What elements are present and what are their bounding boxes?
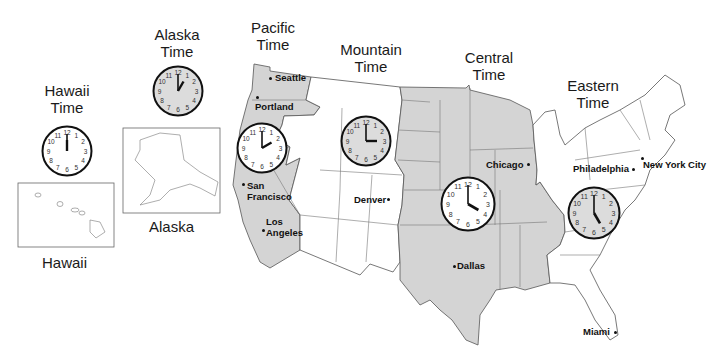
svg-text:9: 9: [346, 138, 350, 145]
svg-text:9: 9: [446, 201, 450, 208]
zone-title-central: Central Time: [454, 49, 524, 83]
svg-text:11: 11: [54, 132, 61, 139]
svg-text:3: 3: [279, 145, 283, 152]
city-dot-chicago: [527, 163, 530, 166]
zone-title-pacific: Pacific Time: [244, 19, 302, 53]
hawaii-inset-box: [18, 183, 114, 247]
city-dot-portland: [256, 96, 259, 99]
svg-text:4: 4: [276, 154, 280, 161]
city-dot-seattle: [269, 77, 272, 80]
city-dot-philadelphia: [632, 168, 635, 171]
zone-title-line1: Mountain: [331, 41, 411, 58]
city-philadelphia: Philadelphia: [573, 163, 629, 174]
zone-title-mountain: Mountain Time: [331, 41, 411, 75]
svg-text:8: 8: [160, 97, 164, 104]
alaska-label: Alaska: [149, 218, 194, 235]
svg-text:9: 9: [242, 145, 246, 152]
svg-text:11: 11: [249, 129, 256, 136]
svg-text:4: 4: [192, 97, 196, 104]
city-dallas: Dallas: [457, 260, 485, 271]
svg-text:1: 1: [476, 183, 480, 190]
zone-title-line2: Time: [38, 99, 96, 116]
svg-text:1: 1: [373, 122, 377, 129]
zone-title-line1: Pacific: [244, 19, 302, 36]
svg-text:11: 11: [353, 122, 360, 129]
svg-text:6: 6: [364, 156, 368, 163]
svg-text:7: 7: [167, 104, 171, 111]
zone-title-line1: Alaska: [148, 26, 206, 43]
svg-text:5: 5: [476, 218, 480, 225]
svg-text:8: 8: [348, 147, 352, 154]
zone-title-line2: Time: [331, 58, 411, 75]
clock-pacific: 121234567891011: [236, 122, 288, 174]
city-name-line1: Los: [266, 216, 303, 227]
svg-text:7: 7: [582, 226, 586, 233]
svg-text:9: 9: [573, 210, 577, 217]
svg-text:3: 3: [84, 148, 88, 155]
city-name-line2: Francisco: [247, 191, 292, 202]
svg-text:8: 8: [575, 219, 579, 226]
svg-text:11: 11: [581, 193, 588, 200]
svg-text:3: 3: [195, 88, 199, 95]
clock-hawaii: 121234567891011: [41, 125, 93, 177]
zone-title-line2: Time: [244, 36, 302, 53]
svg-text:4: 4: [483, 211, 487, 218]
svg-text:5: 5: [269, 161, 273, 168]
city-miami: Miami: [583, 326, 610, 337]
svg-text:2: 2: [81, 138, 85, 145]
zone-title-alaska: Alaska Time: [148, 26, 206, 60]
svg-text:8: 8: [449, 211, 453, 218]
svg-text:7: 7: [56, 164, 60, 171]
svg-text:5: 5: [602, 226, 606, 233]
svg-text:2: 2: [483, 191, 487, 198]
zone-title-line2: Time: [558, 94, 628, 111]
svg-text:2: 2: [192, 78, 196, 85]
svg-text:7: 7: [456, 218, 460, 225]
zone-title-eastern: Eastern Time: [558, 77, 628, 111]
city-new-york-city: New York City: [643, 159, 706, 170]
svg-text:7: 7: [355, 154, 359, 161]
city-dot-denver: [387, 198, 390, 201]
svg-text:6: 6: [592, 229, 596, 236]
svg-text:11: 11: [165, 72, 172, 79]
svg-text:7: 7: [251, 161, 255, 168]
svg-text:10: 10: [447, 191, 455, 198]
zone-title-line1: Hawaii: [38, 82, 96, 99]
svg-text:4: 4: [609, 219, 613, 226]
zone-title-hawaii: Hawaii Time: [38, 82, 96, 116]
city-name-line2: Angeles: [266, 227, 303, 238]
svg-text:1: 1: [185, 72, 189, 79]
svg-text:11: 11: [454, 183, 461, 190]
svg-text:4: 4: [380, 147, 384, 154]
city-portland: Portland: [255, 101, 294, 112]
clock-central: 121234567891011: [440, 176, 496, 232]
svg-text:10: 10: [346, 128, 354, 135]
clock-eastern: 121234567891011: [567, 186, 621, 240]
svg-text:2: 2: [380, 128, 384, 135]
city-los-angeles: Los Angeles: [266, 216, 303, 238]
city-seattle: Seattle: [275, 72, 306, 83]
svg-text:2: 2: [276, 135, 280, 142]
svg-text:1: 1: [602, 193, 606, 200]
svg-text:3: 3: [612, 210, 616, 217]
svg-text:8: 8: [49, 157, 53, 164]
city-dot-dallas: [453, 265, 456, 268]
svg-text:5: 5: [74, 164, 78, 171]
svg-text:3: 3: [486, 201, 490, 208]
svg-text:8: 8: [244, 154, 248, 161]
city-chicago: Chicago: [486, 159, 523, 170]
svg-text:6: 6: [466, 221, 470, 228]
city-denver: Denver: [354, 194, 386, 205]
city-name-line1: San: [247, 180, 292, 191]
zone-title-line2: Time: [148, 43, 206, 60]
svg-text:5: 5: [185, 104, 189, 111]
svg-text:5: 5: [373, 154, 377, 161]
svg-text:10: 10: [242, 135, 250, 142]
svg-text:2: 2: [609, 200, 613, 207]
city-dot-san-francisco: [242, 183, 245, 186]
clock-mountain: 121234567891011: [340, 115, 392, 167]
svg-text:6: 6: [176, 106, 180, 113]
svg-text:10: 10: [573, 200, 581, 207]
city-san-francisco: San Francisco: [247, 180, 292, 202]
svg-text:3: 3: [383, 138, 387, 145]
